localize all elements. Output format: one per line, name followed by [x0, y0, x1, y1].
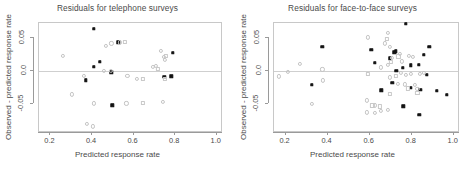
x-tick-label-telephone-2: 0.6: [127, 136, 137, 145]
x-tick-telephone-4: [216, 132, 217, 135]
x-tick-label-face-to-face-3: 0.8: [406, 136, 416, 145]
panel-telephone: Residuals for telephone surveys Observed…: [0, 0, 235, 170]
panel-face-to-face: Residuals for face-to-face surveys Obser…: [235, 0, 470, 170]
data-point-face-to-face-open-square: [388, 92, 392, 96]
y-axis-label-text: Observed - predicted response rate: [3, 14, 12, 140]
x-axis-line-telephone: [38, 132, 222, 133]
x-tick-label-face-to-face-1: 0.4: [321, 136, 331, 145]
x-axis-line-face-to-face: [273, 132, 459, 133]
x-tick-telephone-3: [174, 132, 175, 135]
y-tick-label-telephone-2: 0.05: [15, 32, 29, 41]
x-tick-face-to-face-1: [327, 132, 328, 135]
data-point-face-to-face-open-square: [377, 104, 381, 108]
data-point-telephone-open-square: [140, 77, 144, 81]
x-tick-face-to-face-3: [411, 132, 412, 135]
y-tick-face-to-face-1: [265, 70, 268, 71]
x-tick-label-face-to-face-2: 0.6: [363, 136, 373, 145]
data-point-face-to-face-open-square: [393, 74, 397, 78]
y-tick-label-face-to-face-1: 0.0: [254, 66, 264, 75]
data-point-telephone-open-square: [163, 77, 167, 81]
y-tick-telephone-0: [30, 103, 33, 104]
x-tick-telephone-2: [133, 132, 134, 135]
x-tick-label-telephone-3: 0.8: [169, 136, 179, 145]
x-tick-face-to-face-2: [369, 132, 370, 135]
y-axis-line-telephone: [33, 37, 34, 104]
y-tick-label-face-to-face-2: 0.05: [250, 32, 264, 41]
data-point-face-to-face-open-square: [389, 60, 393, 64]
y-axis-label-text: Observed - predicted response rate: [238, 14, 247, 140]
x-tick-label-telephone-4: 1.0: [211, 136, 221, 145]
x-tick-label-face-to-face-0: 0.2: [279, 136, 289, 145]
x-tick-face-to-face-0: [285, 132, 286, 135]
x-tick-telephone-1: [91, 132, 92, 135]
data-point-telephone-open-square: [141, 101, 145, 105]
y-tick-label-telephone-0: -0.05: [12, 99, 29, 108]
data-point-face-to-face-open-square: [396, 54, 400, 58]
y-tick-face-to-face-2: [265, 37, 268, 38]
y-axis-line-face-to-face: [268, 37, 269, 104]
panel-title-telephone: Residuals for telephone surveys: [0, 3, 235, 13]
data-point-face-to-face-open-square: [385, 36, 389, 40]
x-tick-label-telephone-0: 0.2: [44, 136, 54, 145]
data-point-telephone-open-square: [164, 53, 168, 57]
y-tick-label-face-to-face-0: -0.05: [247, 99, 264, 108]
data-point-face-to-face-open-square: [366, 72, 370, 76]
x-tick-telephone-0: [49, 132, 50, 135]
zero-reference-line-telephone: [39, 71, 221, 72]
y-axis-label-face-to-face: Observed - predicted response rate: [237, 22, 248, 132]
data-point-telephone-open-square: [156, 67, 160, 71]
residual-plots-figure: Residuals for telephone surveys Observed…: [0, 0, 470, 170]
x-axis-label-telephone: Predicted response rate: [0, 150, 235, 159]
x-tick-face-to-face-4: [453, 132, 454, 135]
data-point-telephone-open-square: [123, 40, 127, 44]
panel-title-face-to-face: Residuals for face-to-face surveys: [235, 3, 470, 13]
data-point-face-to-face-open-square: [405, 86, 409, 90]
plot-area-telephone: [38, 22, 222, 132]
y-tick-label-telephone-1: 0.0: [19, 66, 29, 75]
x-tick-label-face-to-face-4: 1.0: [448, 136, 458, 145]
data-point-face-to-face-open-square: [370, 103, 374, 107]
y-tick-face-to-face-0: [265, 103, 268, 104]
data-point-face-to-face-open-square: [415, 91, 419, 95]
x-axis-label-face-to-face: Predicted response rate: [235, 150, 470, 159]
y-axis-label-telephone: Observed - predicted response rate: [2, 22, 13, 132]
y-tick-telephone-1: [30, 70, 33, 71]
x-tick-label-telephone-1: 0.4: [86, 136, 96, 145]
y-tick-telephone-2: [30, 37, 33, 38]
